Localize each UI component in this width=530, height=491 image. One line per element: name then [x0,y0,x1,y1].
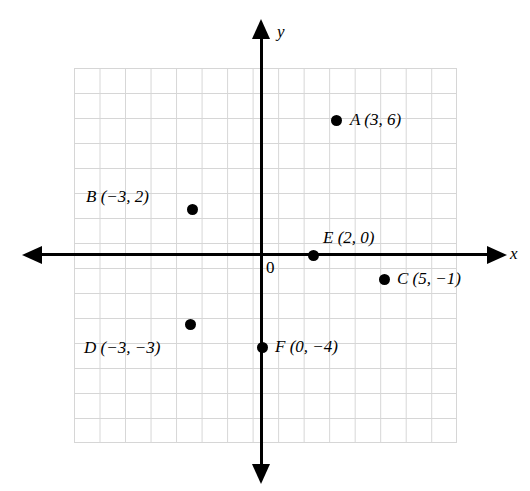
x-axis-label: x [510,244,518,264]
y-axis-label: y [277,22,285,42]
point-label-f: F (0, −4) [275,337,338,357]
coordinate-plane-figure: y x 0 A (3, 6)B (−3, 2)C (5, −1)D (−3, −… [0,0,530,491]
y-axis-arrow-down-icon [252,464,270,484]
origin-label: 0 [266,258,275,278]
point-label-a: A (3, 6) [350,110,401,130]
x-axis-arrow-right-icon [487,246,507,264]
point-marker-d [185,319,196,330]
top-caption [150,0,530,3]
x-axis-arrow-left-icon [22,246,42,264]
point-label-b: B (−3, 2) [86,187,149,207]
y-axis-arrow-up-icon [252,19,270,39]
point-marker-f [257,342,268,353]
y-axis-line [260,28,263,478]
x-axis-line [33,253,499,256]
point-marker-c [379,274,390,285]
point-label-d: D (−3, −3) [84,338,160,358]
point-label-e: E (2, 0) [323,228,374,248]
point-marker-b [187,204,198,215]
point-label-c: C (5, −1) [397,269,461,289]
point-marker-a [331,115,342,126]
point-marker-e [308,250,319,261]
